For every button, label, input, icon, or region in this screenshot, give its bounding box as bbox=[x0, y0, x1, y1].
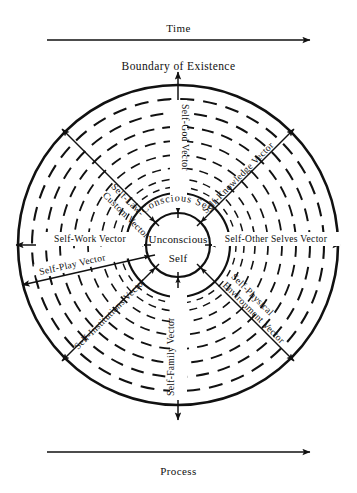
self-institutions-vector-label: Self-Institutions Vector bbox=[72, 275, 148, 351]
process-axis-label: Process bbox=[0, 465, 357, 477]
self-family-vector-label: Self-Family Vector bbox=[165, 317, 176, 396]
self-god-vector-label: Self-God Vector bbox=[180, 104, 191, 171]
time-axis-label: Time bbox=[0, 22, 357, 34]
boundary-of-existence-label: Boundary of Existence bbox=[0, 60, 357, 72]
diagram-canvas: Time Boundary of Existence Process bbox=[0, 0, 357, 493]
self-other-selves-vector-label: Self-Other Selves Vector bbox=[225, 233, 328, 244]
self-other-selves-vector-axis: Self-Other Selves Vector bbox=[205, 232, 340, 246]
self-institutions-vector-axis: Self-Institutions Vector bbox=[62, 264, 159, 361]
unconscious-self-line2: Self bbox=[169, 252, 188, 264]
self-family-vector-axis: Self-Family Vector bbox=[165, 272, 187, 420]
self-vectors-diagram: Self-God Vector Self-Family Vector Self-… bbox=[0, 0, 357, 493]
unconscious-self-line1: Unconscious bbox=[148, 233, 207, 245]
self-work-vector-label: Self-Work Vector bbox=[54, 233, 126, 244]
self-physical-environment-vector-label: Self-Physical Environment Vector bbox=[221, 271, 296, 346]
